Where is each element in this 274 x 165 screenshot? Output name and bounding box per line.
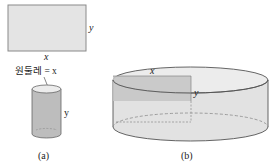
cross-section-width-label: x <box>149 65 155 76</box>
caption-b: (b) <box>181 150 193 162</box>
flat-rectangle <box>8 5 86 51</box>
panel-a: x y 원둘레 = x y (a) <box>8 5 94 162</box>
caption-a: (a) <box>38 150 49 162</box>
cross-section-rectangle <box>113 76 191 101</box>
cross-section-height-label: y <box>193 87 199 98</box>
panel-b: x y (b) <box>113 65 268 162</box>
small-cylinder <box>32 85 61 138</box>
cylinder-height-label: y <box>64 107 69 118</box>
diagram-canvas: x y 원둘레 = x y (a) x y (b) <box>0 0 274 165</box>
circumference-label: 원둘레 = x <box>15 66 57 76</box>
rectangle-height-label: y <box>88 22 94 33</box>
rectangle-width-label: x <box>43 51 49 62</box>
